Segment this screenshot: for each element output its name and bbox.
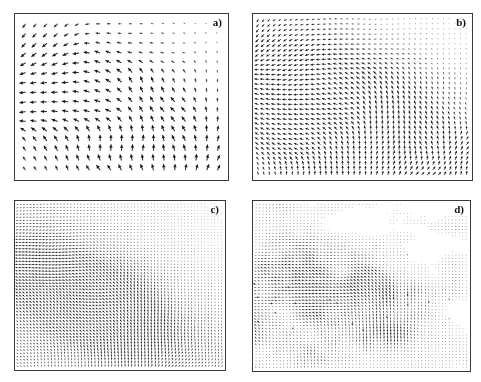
panel-a: a) <box>14 13 229 181</box>
panel-d: d) <box>252 200 471 372</box>
panel-b: b) <box>252 13 473 181</box>
panel-c-vector-field <box>15 201 225 370</box>
panel-a-vector-field <box>15 14 228 180</box>
figure-root: a) b) c) d) <box>0 0 481 382</box>
panel-c-label: c) <box>210 204 219 215</box>
panel-b-vector-field <box>253 14 472 180</box>
panel-a-label: a) <box>213 17 222 28</box>
panel-d-label: d) <box>454 204 464 215</box>
panel-c: c) <box>14 200 226 371</box>
panel-d-vector-field <box>253 201 470 371</box>
panel-b-label: b) <box>456 17 466 28</box>
